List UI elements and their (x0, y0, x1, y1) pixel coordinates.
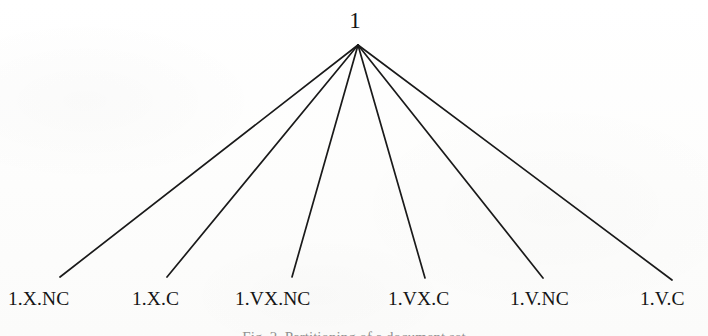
tree-node-leaf-1-v-c: 1.V.C (640, 289, 685, 309)
tree-node-leaf-1-x-nc: 1.X.NC (8, 289, 69, 309)
tree-node-leaf-1-vx-nc: 1.VX.NC (235, 289, 310, 309)
tree-edge (358, 45, 672, 280)
tree-edge (292, 45, 358, 277)
tree-edges-graphic (0, 0, 708, 336)
tree-node-leaf-1-v-nc: 1.V.NC (510, 289, 569, 309)
tree-edge (358, 45, 543, 278)
figure-container: 1 1.X.NC 1.X.C 1.VX.NC 1.VX.C 1.V.NC 1.V… (0, 0, 708, 336)
tree-edge (167, 45, 358, 277)
tree-node-leaf-1-x-c: 1.X.C (132, 289, 179, 309)
tree-node-leaf-1-vx-c: 1.VX.C (388, 289, 449, 309)
tree-node-root: 1 (349, 9, 361, 32)
tree-edge (60, 45, 358, 277)
tree-edge (358, 45, 425, 278)
